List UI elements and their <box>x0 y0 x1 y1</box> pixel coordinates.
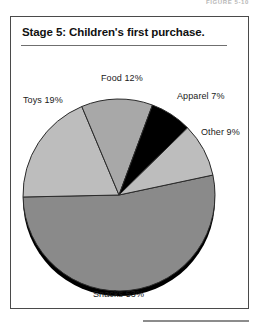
pie-label-toys: Toys 19% <box>23 95 63 105</box>
pie-chart: Toys 19% Food 12% Apparel 7% Other 9% Sn… <box>11 17 248 308</box>
pie-label-food: Food 12% <box>101 73 143 83</box>
figure-frame: Stage 5: Children's first purchase. Toys… <box>10 16 249 309</box>
pie-chart-graphic <box>19 95 223 299</box>
figure-caption: Figure 5-10 <box>206 0 249 5</box>
pie-label-other: Other 9% <box>201 127 240 137</box>
pie-label-apparel: Apparel 7% <box>177 91 225 101</box>
footer-rule <box>143 320 249 322</box>
pie-label-snacks: Snacks 53% <box>93 289 144 299</box>
